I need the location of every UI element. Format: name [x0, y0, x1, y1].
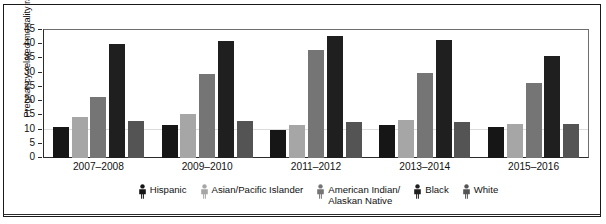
- bar-group: [370, 30, 479, 158]
- bar: [327, 36, 343, 158]
- y-tick-label: 40: [24, 39, 35, 47]
- bar: [526, 83, 542, 158]
- bar: [398, 120, 414, 158]
- bar: [128, 121, 144, 158]
- y-tick-mark: [38, 157, 42, 158]
- x-tick-label: 2009–2010: [153, 161, 262, 172]
- y-axis-tick-labels: 454035302520151050: [0, 29, 40, 158]
- person-figure-icon: [413, 184, 422, 199]
- bar: [507, 124, 523, 158]
- bar-group: [153, 30, 262, 158]
- footer-divider: [3, 214, 601, 215]
- bar: [417, 73, 433, 158]
- bar: [90, 97, 106, 158]
- y-tick-label: 30: [24, 68, 35, 76]
- bar-group: [262, 30, 371, 158]
- y-tick-label: 10: [24, 125, 35, 133]
- bar: [72, 117, 88, 158]
- y-tick-mark: [38, 43, 42, 44]
- bar: [488, 127, 504, 158]
- y-tick-mark: [38, 129, 42, 130]
- bar: [454, 122, 470, 158]
- bar: [544, 56, 560, 158]
- y-tick-label: 25: [24, 82, 35, 90]
- bar: [346, 122, 362, 158]
- y-tick-mark: [38, 72, 42, 73]
- bar: [237, 121, 253, 158]
- x-tick-label: 2007–2008: [44, 161, 153, 172]
- bar: [436, 40, 452, 158]
- y-tick-label: 45: [24, 25, 35, 33]
- legend-label: Black: [425, 184, 448, 196]
- bar: [218, 41, 234, 158]
- legend-item: Hispanic: [138, 184, 187, 199]
- bar-group: [479, 30, 588, 158]
- legend-item: American Indian/ Alaskan Native: [316, 184, 400, 206]
- x-tick-label: 2013–2014: [370, 161, 479, 172]
- bar: [379, 125, 395, 158]
- legend-item: Asian/Pacific Islander: [200, 184, 304, 199]
- bar-group: [44, 30, 153, 158]
- person-figure-icon: [138, 184, 147, 199]
- x-axis-tick-labels: 2007–20082009–20102011–20122013–20142015…: [44, 161, 588, 172]
- y-tick-mark: [38, 57, 42, 58]
- person-figure-icon: [200, 184, 209, 199]
- bar: [563, 124, 579, 158]
- bar: [53, 127, 69, 158]
- y-tick-mark: [38, 114, 42, 115]
- bar: [270, 130, 286, 158]
- legend-item: White: [462, 184, 499, 199]
- y-tick-mark: [38, 29, 42, 30]
- y-tick-label: 5: [29, 139, 35, 147]
- x-tick-label: 2011–2012: [262, 161, 371, 172]
- legend-label: American Indian/ Alaskan Native: [328, 184, 400, 206]
- bar: [162, 125, 178, 158]
- bar-groups: [44, 30, 588, 158]
- y-tick-label: 0: [29, 153, 35, 161]
- chart-legend: HispanicAsian/Pacific IslanderAmerican I…: [44, 184, 592, 206]
- chart-figure: Pregnancy-related mortality ratio 454035…: [0, 0, 606, 224]
- person-figure-icon: [462, 184, 471, 199]
- y-tick-label: 35: [24, 53, 35, 61]
- bar: [199, 74, 215, 158]
- legend-label: Hispanic: [150, 184, 187, 196]
- legend-item: Black: [413, 184, 448, 199]
- y-tick-label: 20: [24, 96, 35, 104]
- x-tick-label: 2015–2016: [479, 161, 588, 172]
- y-tick-mark: [38, 143, 42, 144]
- bar: [308, 50, 324, 158]
- y-tick-mark: [38, 86, 42, 87]
- bar: [109, 44, 125, 158]
- y-tick-label: 15: [24, 110, 35, 118]
- legend-label: White: [474, 184, 499, 196]
- legend-label: Asian/Pacific Islander: [212, 184, 304, 196]
- bar: [289, 125, 305, 158]
- person-figure-icon: [316, 184, 325, 199]
- y-tick-mark: [38, 100, 42, 101]
- bar: [180, 114, 196, 158]
